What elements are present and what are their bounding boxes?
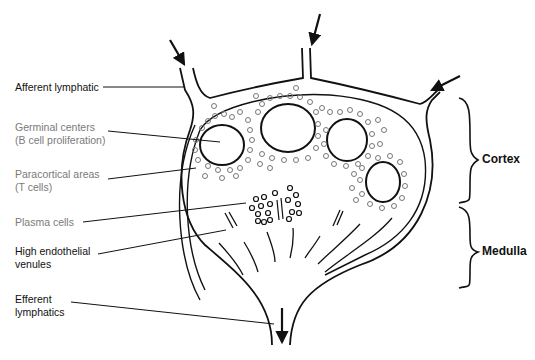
label-germinal-centers-line2: (B cell proliferation) <box>15 134 105 147</box>
label-high-endothelial-venules: High endothelial venules <box>15 245 90 271</box>
region-braces <box>459 98 478 288</box>
label-germinal-centers-line1: Germinal centers <box>15 121 105 134</box>
label-germinal-centers: Germinal centers (B cell proliferation) <box>15 121 105 147</box>
label-plasma-cells: Plasma cells <box>15 216 74 229</box>
label-paracortical-line2: (T cells) <box>15 181 100 194</box>
medullary-cords <box>219 210 392 275</box>
label-paracortical-areas: Paracortical areas (T cells) <box>15 168 100 194</box>
label-hev-line1: High endothelial <box>15 245 90 258</box>
label-afferent-lymphatic: Afferent lymphatic <box>15 81 99 94</box>
label-efferent-lymphatics: Efferent lymphatics <box>15 293 65 319</box>
region-label-medulla: Medulla <box>482 245 527 258</box>
region-label-cortex: Cortex <box>482 153 520 166</box>
label-efferent-line2: lymphatics <box>15 306 65 319</box>
label-hev-line2: venules <box>15 258 90 271</box>
label-efferent-line1: Efferent <box>15 293 65 306</box>
capsule-outer <box>180 48 440 345</box>
plasma-cells <box>250 186 302 225</box>
label-paracortical-line1: Paracortical areas <box>15 168 100 181</box>
